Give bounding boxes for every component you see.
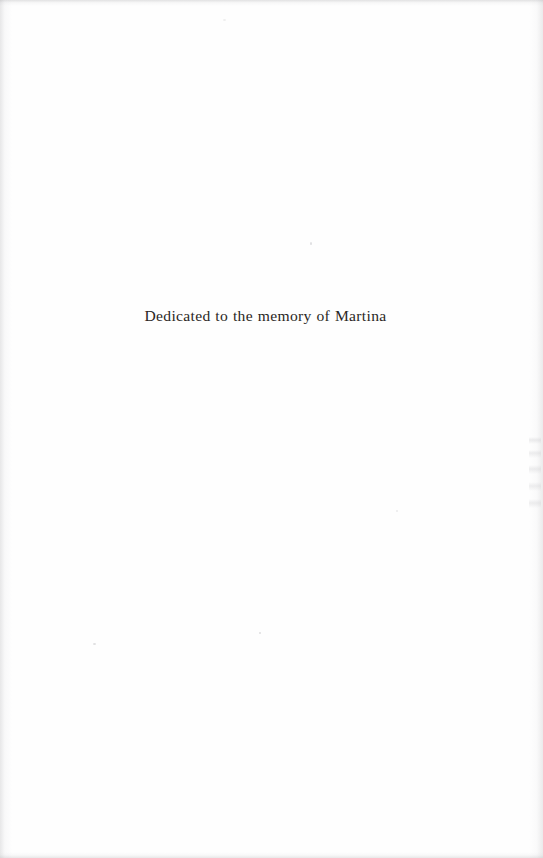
scan-edge-band-bottom: [0, 852, 543, 858]
scan-speck: [259, 632, 261, 634]
scan-speck: [223, 19, 226, 21]
dedication-text: Dedicated to the memory of Martina: [144, 305, 386, 327]
scan-edge-band-top: [0, 0, 543, 6]
scan-speck: [93, 643, 96, 645]
facing-page-bleed-through: [529, 437, 541, 519]
book-page: Dedicated to the memory of Martina: [0, 0, 543, 858]
dedication-block: Dedicated to the memory of Martina: [0, 305, 531, 327]
scan-speck: [396, 510, 398, 512]
page-gutter-shadow-right: [529, 0, 543, 858]
page-gutter-shadow-left: [0, 0, 12, 858]
scan-speck: [310, 242, 312, 245]
